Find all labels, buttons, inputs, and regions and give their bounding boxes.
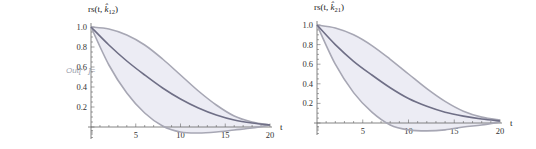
x-tick-label: 20 bbox=[266, 130, 275, 140]
y-tick-label: 1.0 bbox=[302, 20, 313, 30]
x-axis-label: t bbox=[280, 122, 283, 132]
x-tick-label: 20 bbox=[496, 126, 505, 136]
y-axis-label: rs(t, k̂12) bbox=[88, 3, 118, 15]
y-tick-label: 0.8 bbox=[76, 42, 87, 52]
y-tick-label: 0.2 bbox=[302, 98, 313, 108]
x-tick-label: 5 bbox=[361, 126, 365, 136]
charts-canvas: 51015200.20.40.60.81.0trs(t, k̂12) 51015… bbox=[0, 0, 536, 149]
plot-rs-k12: 51015200.20.40.60.81.0trs(t, k̂12) bbox=[76, 3, 283, 140]
x-axis-label: t bbox=[510, 118, 513, 128]
plot-rs-k21: 51015200.20.40.60.81.0trs(t, k̂21) bbox=[302, 1, 513, 136]
y-tick-label: 0.8 bbox=[302, 40, 313, 50]
y-tick-label: 1.0 bbox=[76, 22, 87, 32]
y-tick-label: 0.4 bbox=[302, 79, 313, 89]
y-tick-label: 0.2 bbox=[76, 102, 87, 112]
y-axis-label: rs(t, k̂21) bbox=[314, 1, 344, 13]
y-tick-label: 0.6 bbox=[302, 59, 313, 69]
x-tick-label: 5 bbox=[134, 130, 138, 140]
y-tick-label: 0.6 bbox=[76, 62, 87, 72]
y-tick-label: 0.4 bbox=[76, 82, 87, 92]
